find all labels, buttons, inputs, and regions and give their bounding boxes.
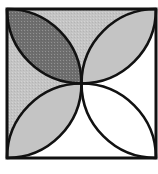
- petal-square-diagram: [0, 0, 158, 174]
